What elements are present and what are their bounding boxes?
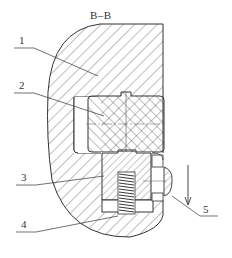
- part-label-4: 4: [21, 219, 27, 230]
- section-drawing: [0, 0, 232, 258]
- spring-part-4: [118, 172, 135, 214]
- downward-arrow-icon: [185, 165, 191, 205]
- part-label-2: 2: [19, 80, 25, 91]
- part-label-1: 1: [19, 35, 25, 46]
- part-label-3: 3: [21, 172, 27, 183]
- part-label-5: 5: [203, 204, 209, 215]
